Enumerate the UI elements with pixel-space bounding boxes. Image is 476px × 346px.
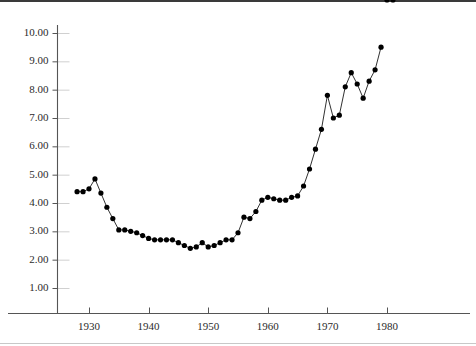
- data-point: [247, 216, 252, 221]
- x-axis-ticks: [90, 308, 388, 314]
- y-axis-tick-label: 4.00: [29, 197, 48, 208]
- data-point: [337, 113, 342, 118]
- data-point: [146, 236, 151, 241]
- y-axis-tick-label: 3.00: [29, 225, 48, 236]
- data-line: [77, 47, 381, 248]
- data-point: [170, 237, 175, 242]
- data-point: [104, 205, 109, 210]
- data-point: [116, 227, 121, 232]
- data-point: [367, 79, 372, 84]
- data-point: [134, 230, 139, 235]
- data-point: [74, 189, 79, 194]
- data-point: [176, 240, 181, 245]
- data-point: [265, 195, 270, 200]
- data-point: [343, 84, 348, 89]
- data-point: [241, 215, 246, 220]
- x-axis-tick-label: 1950: [178, 321, 238, 332]
- data-point: [307, 166, 312, 171]
- data-point: [188, 246, 193, 251]
- data-point: [301, 183, 306, 188]
- data-point: [253, 209, 258, 214]
- data-point: [80, 189, 85, 194]
- data-point: [92, 176, 97, 181]
- x-axis-tick-label: 1940: [119, 321, 179, 332]
- gridlines-group: [58, 34, 70, 289]
- data-point: [218, 240, 223, 245]
- data-point: [164, 237, 169, 242]
- y-axis-tick-label: 9.00: [29, 55, 48, 66]
- data-point: [158, 237, 163, 242]
- data-markers: [74, 0, 395, 251]
- data-point: [361, 96, 366, 101]
- x-axis-tick-label: 1970: [297, 321, 357, 332]
- data-point: [223, 237, 228, 242]
- data-point: [390, 0, 395, 3]
- data-point: [86, 186, 91, 191]
- y-axis-tick-label: 2.00: [29, 254, 48, 265]
- data-point: [235, 230, 240, 235]
- data-point: [98, 190, 103, 195]
- y-axis-tick-label: 6.00: [29, 140, 48, 151]
- data-point: [271, 196, 276, 201]
- data-point: [122, 227, 127, 232]
- y-axis-tick-label: 10.00: [24, 27, 49, 38]
- data-point: [128, 229, 133, 234]
- y-axis-tick-label: 1.00: [29, 282, 48, 293]
- data-point: [182, 243, 187, 248]
- data-point: [152, 237, 157, 242]
- data-point: [289, 195, 294, 200]
- data-point: [295, 193, 300, 198]
- data-point: [384, 0, 389, 3]
- data-point: [349, 70, 354, 75]
- x-axis-tick-label: 1960: [238, 321, 298, 332]
- data-point: [325, 93, 330, 98]
- y-axis-tick-label: 5.00: [29, 169, 48, 180]
- y-axis-tick-label: 8.00: [29, 84, 48, 95]
- data-point: [331, 115, 336, 120]
- data-point: [319, 127, 324, 132]
- y-axis-tick-label: 7.00: [29, 112, 48, 123]
- x-axis-tick-label: 1930: [59, 321, 119, 332]
- data-point: [140, 233, 145, 238]
- data-point: [212, 243, 217, 248]
- data-point: [378, 45, 383, 50]
- data-point: [372, 67, 377, 72]
- x-axis-tick-label: 1980: [357, 321, 417, 332]
- data-point: [313, 147, 318, 152]
- line-chart-plot: [0, 0, 476, 346]
- data-point: [355, 81, 360, 86]
- data-point: [110, 216, 115, 221]
- data-point: [229, 237, 234, 242]
- y-axis-ticks: [53, 34, 58, 289]
- data-point: [283, 198, 288, 203]
- data-point: [206, 244, 211, 249]
- data-point: [194, 244, 199, 249]
- data-point: [259, 198, 264, 203]
- data-point: [277, 198, 282, 203]
- data-point: [200, 240, 205, 245]
- chart-container: 1.002.003.004.005.006.007.008.009.0010.0…: [0, 0, 476, 346]
